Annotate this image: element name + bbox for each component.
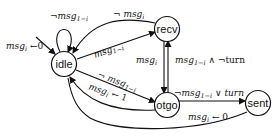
- edge-otgo-sent: ¬msg1−i ∨ turn: [174, 88, 245, 101]
- node-idle: idle: [52, 52, 77, 77]
- edge-label-recv-idle: ¬ msgi: [113, 9, 144, 21]
- node-label-otgo: otgo: [156, 99, 177, 111]
- edge-label-selfloop: ¬msg1−i: [50, 11, 88, 23]
- edge-otgo-recv: msg1−i ∧ ¬turn: [168, 41, 245, 93]
- state-diagram: msgi ←0 ¬msg1−i ¬ msgi msg1−i ¬ msg1−i m…: [0, 0, 277, 137]
- edge-recv-otgo: msgi: [136, 41, 164, 93]
- edge-label-init: msgi ←0: [6, 41, 43, 53]
- edge-init-idle: msgi ←0: [6, 37, 55, 54]
- node-label-sent: sent: [248, 97, 269, 109]
- edge-label-recv-otgo: msgi: [136, 55, 157, 67]
- edge-label-otgo-recv: msg1−i ∧ ¬turn: [175, 55, 245, 67]
- node-recv: recv: [155, 17, 180, 42]
- node-sent: sent: [246, 91, 271, 116]
- edge-idle-selfloop: ¬msg1−i: [50, 11, 88, 52]
- edge-label-otgo-sent: ¬msg1−i ∨ turn: [174, 88, 244, 100]
- node-label-idle: idle: [55, 58, 72, 70]
- edge-label-sent-idle: msgi ← 0: [188, 112, 228, 124]
- node-otgo: otgo: [155, 93, 180, 118]
- node-label-recv: recv: [157, 23, 178, 35]
